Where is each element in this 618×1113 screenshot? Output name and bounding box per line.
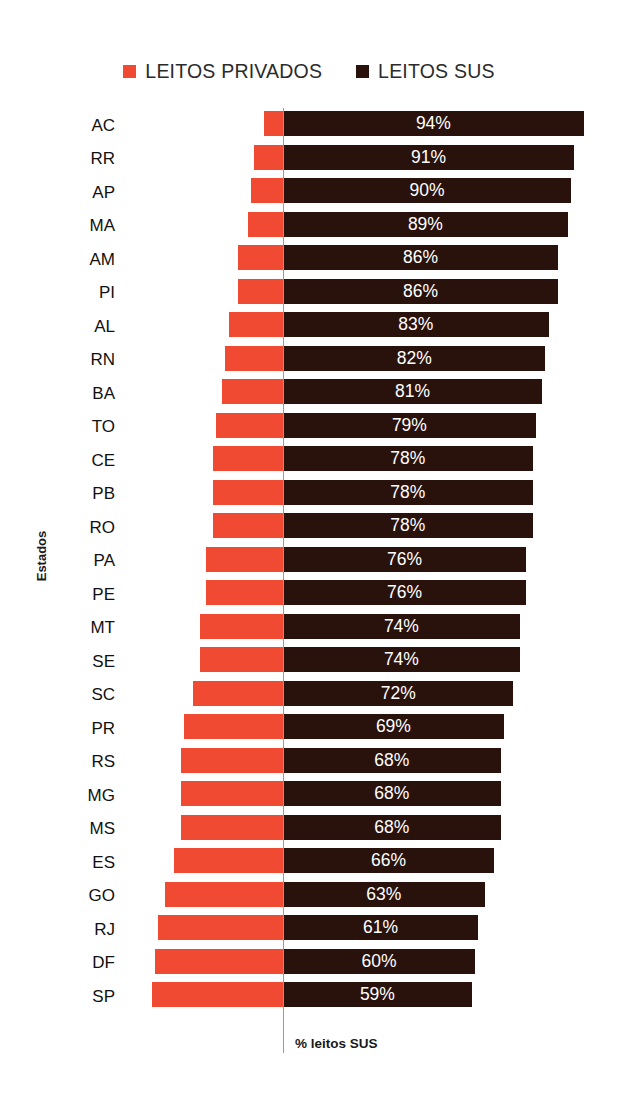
bar-leitos-privados	[229, 312, 283, 337]
bar-leitos-sus	[283, 145, 574, 170]
y-tick-label-ma: MA	[55, 217, 115, 234]
chart-row: PB78%	[0, 477, 618, 511]
bar-leitos-sus	[283, 245, 558, 270]
bar-leitos-sus	[283, 446, 533, 471]
legend-entry-leitos-privados[interactable]: LEITOS PRIVADOS	[123, 62, 322, 82]
bar-leitos-privados	[225, 346, 283, 371]
chart-row: TO79%	[0, 410, 618, 444]
bar-leitos-privados	[213, 513, 283, 538]
chart-row: AM86%	[0, 242, 618, 276]
bar-leitos-sus	[283, 413, 536, 438]
bar-leitos-sus	[283, 513, 533, 538]
bar-leitos-privados	[206, 547, 283, 572]
y-tick-label-sc: SC	[55, 686, 115, 703]
y-tick-label-es: ES	[55, 853, 115, 870]
bar-leitos-privados	[264, 111, 283, 136]
y-tick-label-ac: AC	[55, 116, 115, 133]
bar-leitos-privados	[174, 848, 283, 873]
bar-leitos-sus	[283, 815, 501, 840]
y-tick-label-df: DF	[55, 954, 115, 971]
bar-leitos-privados	[248, 212, 283, 237]
chart-row: RO78%	[0, 510, 618, 544]
y-tick-label-am: AM	[55, 250, 115, 267]
chart-row: AL83%	[0, 309, 618, 343]
bar-leitos-sus	[283, 949, 475, 974]
plot-area: AC94%RR91%AP90%MA89%AM86%PI86%AL83%RN82%…	[0, 108, 618, 1020]
y-tick-label-ap: AP	[55, 183, 115, 200]
y-tick-label-se: SE	[55, 652, 115, 669]
y-tick-label-rn: RN	[55, 351, 115, 368]
bar-leitos-privados	[158, 915, 283, 940]
chart-root: LEITOS PRIVADOS LEITOS SUS Estados AC94%…	[0, 0, 618, 1113]
chart-row: DF60%	[0, 946, 618, 980]
legend-label-leitos-sus: LEITOS SUS	[378, 62, 495, 82]
chart-row: SE74%	[0, 644, 618, 678]
chart-row: MT74%	[0, 611, 618, 645]
x-axis-title: % leitos SUS	[295, 1036, 378, 1051]
y-tick-label-al: AL	[55, 317, 115, 334]
bar-leitos-privados	[200, 614, 283, 639]
bar-leitos-privados	[152, 982, 283, 1007]
bar-leitos-sus	[283, 714, 504, 739]
bar-leitos-sus	[283, 748, 501, 773]
bar-leitos-privados	[181, 815, 283, 840]
bar-leitos-sus	[283, 312, 549, 337]
chart-row: BA81%	[0, 376, 618, 410]
bar-leitos-privados	[181, 781, 283, 806]
y-tick-label-to: TO	[55, 418, 115, 435]
bar-leitos-sus	[283, 279, 558, 304]
chart-row: RN82%	[0, 343, 618, 377]
bar-leitos-privados	[155, 949, 283, 974]
bar-leitos-privados	[216, 413, 283, 438]
bar-leitos-privados	[213, 446, 283, 471]
bar-leitos-sus	[283, 882, 485, 907]
chart-row: SP59%	[0, 979, 618, 1013]
y-tick-label-rj: RJ	[55, 920, 115, 937]
bar-leitos-sus	[283, 614, 520, 639]
bar-leitos-privados	[251, 178, 283, 203]
y-tick-label-rs: RS	[55, 753, 115, 770]
bar-leitos-privados	[184, 714, 283, 739]
bar-leitos-privados	[181, 748, 283, 773]
chart-legend: LEITOS PRIVADOS LEITOS SUS	[0, 62, 618, 82]
y-tick-label-rr: RR	[55, 150, 115, 167]
chart-row: RR91%	[0, 142, 618, 176]
chart-row: RS68%	[0, 745, 618, 779]
legend-label-leitos-privados: LEITOS PRIVADOS	[145, 62, 322, 82]
bar-leitos-sus	[283, 681, 513, 706]
chart-row: GO63%	[0, 879, 618, 913]
bar-leitos-sus	[283, 379, 542, 404]
bar-leitos-sus	[283, 580, 526, 605]
bar-leitos-privados	[213, 480, 283, 505]
bar-leitos-privados	[222, 379, 283, 404]
y-tick-label-mt: MT	[55, 619, 115, 636]
chart-row: SC72%	[0, 678, 618, 712]
y-tick-label-pr: PR	[55, 719, 115, 736]
bar-leitos-privados	[200, 647, 283, 672]
axis-baseline	[283, 108, 284, 1053]
bar-leitos-privados	[165, 882, 283, 907]
bar-leitos-sus	[283, 111, 584, 136]
bar-leitos-sus	[283, 647, 520, 672]
bar-leitos-sus	[283, 346, 545, 371]
chart-row: MS68%	[0, 812, 618, 846]
y-tick-label-pa: PA	[55, 552, 115, 569]
bar-leitos-sus	[283, 982, 472, 1007]
bar-leitos-sus	[283, 848, 494, 873]
y-tick-label-pb: PB	[55, 485, 115, 502]
chart-row: RJ61%	[0, 912, 618, 946]
bar-leitos-sus	[283, 480, 533, 505]
bar-leitos-privados	[238, 279, 283, 304]
y-tick-label-mg: MG	[55, 786, 115, 803]
bar-leitos-privados	[254, 145, 283, 170]
chart-row: PE76%	[0, 577, 618, 611]
bar-leitos-sus	[283, 212, 568, 237]
chart-row: PI86%	[0, 276, 618, 310]
square-swatch-icon	[356, 65, 369, 78]
y-tick-label-pi: PI	[55, 284, 115, 301]
bar-leitos-sus	[283, 781, 501, 806]
legend-entry-leitos-sus[interactable]: LEITOS SUS	[356, 62, 495, 82]
y-tick-label-ro: RO	[55, 518, 115, 535]
chart-row: MG68%	[0, 778, 618, 812]
y-tick-label-pe: PE	[55, 585, 115, 602]
